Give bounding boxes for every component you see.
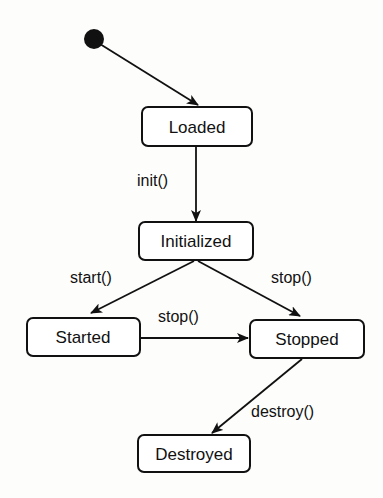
state-stopped-label: Stopped: [275, 330, 338, 349]
transition-label-stop-from-started: stop(): [158, 308, 199, 325]
state-diagram: Loaded init() Initialized start() stop()…: [0, 0, 383, 498]
state-loaded-label: Loaded: [169, 118, 226, 137]
initial-state-dot: [84, 29, 104, 49]
transition-stopped-to-destroyed: [212, 359, 302, 433]
transition-label-destroy: destroy(): [251, 403, 314, 420]
state-destroyed: Destroyed: [138, 435, 250, 472]
state-initialized-label: Initialized: [161, 232, 232, 251]
transition-label-start: start(): [70, 269, 112, 286]
transition-initial-to-loaded: [100, 44, 198, 105]
transition-label-stop-from-initialized: stop(): [271, 269, 312, 286]
state-destroyed-label: Destroyed: [155, 445, 232, 464]
diagram-svg: Loaded init() Initialized start() stop()…: [0, 0, 383, 498]
transition-label-init: init(): [137, 172, 168, 189]
state-started: Started: [27, 318, 140, 356]
state-started-label: Started: [56, 328, 111, 347]
state-loaded: Loaded: [142, 107, 252, 146]
state-stopped: Stopped: [250, 320, 364, 358]
state-initialized: Initialized: [139, 222, 253, 260]
